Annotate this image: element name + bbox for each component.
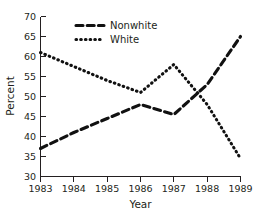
x-axis-title: Year	[128, 198, 152, 210]
legend-label-white: White	[110, 34, 139, 45]
x-tick-label: 1989	[228, 183, 252, 194]
chart-canvas: 70 65 60 55 50 45 40 35 30 1983 1984 198…	[0, 0, 256, 216]
y-tick-label: 55	[24, 71, 36, 82]
y-tick-label: 40	[24, 131, 36, 142]
line-chart-figure: 70 65 60 55 50 45 40 35 30 1983 1984 198…	[0, 0, 256, 216]
y-tick-label: 35	[24, 151, 36, 162]
y-tick-marks	[41, 17, 46, 177]
x-tick-label: 1988	[195, 183, 219, 194]
y-axis-title: Percent	[4, 76, 16, 116]
legend-label-nonwhite: Nonwhite	[110, 20, 157, 31]
x-tick-label: 1984	[62, 183, 86, 194]
chart-legend: Nonwhite White	[76, 20, 157, 45]
x-tick-marks	[41, 177, 241, 182]
axes-group	[41, 17, 241, 177]
y-tick-label: 50	[24, 91, 36, 102]
x-tick-label: 1985	[95, 183, 119, 194]
x-tick-label: 1987	[162, 183, 186, 194]
y-tick-label: 70	[24, 11, 36, 22]
y-tick-label: 30	[24, 171, 36, 182]
y-tick-label: 45	[24, 111, 36, 122]
series-group	[41, 37, 241, 159]
y-tick-labels: 70 65 60 55 50 45 40 35 30	[24, 11, 36, 182]
x-tick-label: 1986	[128, 183, 152, 194]
y-tick-label: 65	[24, 31, 36, 42]
x-tick-label: 1983	[28, 183, 52, 194]
y-tick-label: 60	[24, 51, 36, 62]
x-tick-labels: 1983 1984 1985 1986 1987 1988 1989	[28, 183, 252, 194]
